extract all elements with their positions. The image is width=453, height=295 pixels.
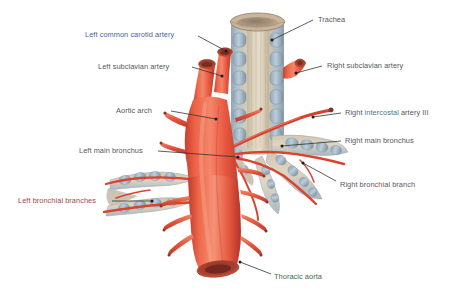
label-left-common-carotid-artery-seg-1: carotid artery xyxy=(130,30,174,39)
label-right-intercostal-artery-iii: Right intercostal artery III xyxy=(345,108,429,117)
label-trachea: Trachea xyxy=(318,15,345,24)
leader-tip-left-subclavian-artery xyxy=(221,75,224,78)
right-subclavian-artery-vessel xyxy=(283,59,306,79)
leader-tip-right-bronchial-branch xyxy=(302,162,305,165)
leader-tip-trachea xyxy=(271,39,274,42)
label-right-intercostal-artery-iii-seg-2: artery III xyxy=(399,108,429,117)
anatomy-figure: Left common carotid arteryLeft subclavia… xyxy=(0,0,453,295)
label-aortic-arch-seg-0: Aortic arch xyxy=(116,106,152,115)
label-right-bronchial-branch-seg-1: chi xyxy=(375,180,385,189)
left-common-carotid-artery-vessel xyxy=(214,48,233,94)
label-right-bronchial-branch: Right bronchial branch xyxy=(340,180,415,189)
label-right-subclavian-artery-seg-0: Right subclavian artery xyxy=(327,61,403,70)
label-left-common-carotid-artery-seg-0: Left common xyxy=(85,30,130,39)
label-left-bronchial-branches-seg-0: Left bronchial branches xyxy=(18,196,96,205)
leader-thoracic-aorta xyxy=(240,262,271,274)
leader-tip-aortic-arch xyxy=(215,118,218,121)
label-thoracic-aorta: Thoracic aorta xyxy=(274,272,322,281)
anatomy-illustration xyxy=(0,0,453,295)
label-right-intercostal-artery-iii-seg-0: Right xyxy=(345,108,365,117)
leader-left-common-carotid-artery xyxy=(198,36,226,51)
leader-tip-thoracic-aorta xyxy=(239,261,242,264)
leader-tip-right-intercostal-artery-iii xyxy=(312,116,315,119)
label-left-common-carotid-artery: Left common carotid artery xyxy=(85,30,174,39)
label-left-subclavian-artery: Left subclavian artery xyxy=(98,62,169,71)
label-right-main-bronchus: Right main bronchus xyxy=(345,136,414,145)
label-right-bronchial-branch-seg-2: al branch xyxy=(384,180,415,189)
label-right-bronchial-branch-seg-0: Right bron xyxy=(340,180,375,189)
leader-tip-left-common-carotid-artery xyxy=(225,50,228,53)
label-thoracic-aorta-seg-0: Thoracic aorta xyxy=(274,272,322,281)
leader-tip-right-main-bronchus xyxy=(281,145,284,148)
label-trachea-seg-0: Trachea xyxy=(318,15,345,24)
label-left-main-bronchus: Left main bronchus xyxy=(79,146,143,155)
label-aortic-arch: Aortic arch xyxy=(116,106,152,115)
leader-tip-left-bronchial-branches xyxy=(151,200,154,203)
leader-tip-left-main-bronchus xyxy=(237,156,240,159)
label-left-main-bronchus-seg-0: Left main bronchus xyxy=(79,146,143,155)
label-left-subclavian-artery-seg-0: Left subclavian artery xyxy=(98,62,169,71)
leader-tip-right-subclavian-artery xyxy=(295,72,298,75)
label-right-intercostal-artery-iii-seg-1: intercostal xyxy=(365,108,399,117)
label-right-subclavian-artery: Right subclavian artery xyxy=(327,61,403,70)
label-left-bronchial-branches: Left bronchial branches xyxy=(18,196,96,205)
label-right-main-bronchus-seg-0: Right main bronchus xyxy=(345,136,414,145)
